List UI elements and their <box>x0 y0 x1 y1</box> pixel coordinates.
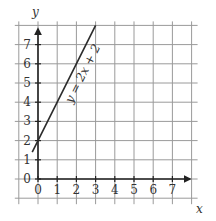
y-tick-label: 2 <box>23 134 31 148</box>
y-tick-label: 0 <box>23 172 31 186</box>
x-tick-label: 1 <box>53 183 61 197</box>
x-tick-label: 4 <box>111 183 119 197</box>
x-tick-label: 5 <box>130 183 138 197</box>
y-tick-label: 1 <box>23 153 31 167</box>
x-axis-label: x <box>196 202 203 216</box>
line-chart: 0123456701234567 x y y = 2x + 2 <box>0 0 216 221</box>
x-tick-label: 3 <box>92 183 100 197</box>
x-tick-label: 7 <box>169 183 177 197</box>
x-tick-label: 2 <box>73 183 81 197</box>
x-tick-label: 6 <box>149 183 157 197</box>
x-tick-label: 0 <box>34 183 42 197</box>
y-tick-label: 5 <box>23 76 31 90</box>
y-tick-label: 4 <box>23 95 31 109</box>
y-tick-label: 3 <box>23 114 31 128</box>
y-tick-label: 6 <box>23 57 31 71</box>
axes <box>38 29 190 179</box>
y-tick-label: 7 <box>23 38 31 52</box>
grid-lines <box>15 21 198 204</box>
y-axis-label: y <box>31 5 39 19</box>
